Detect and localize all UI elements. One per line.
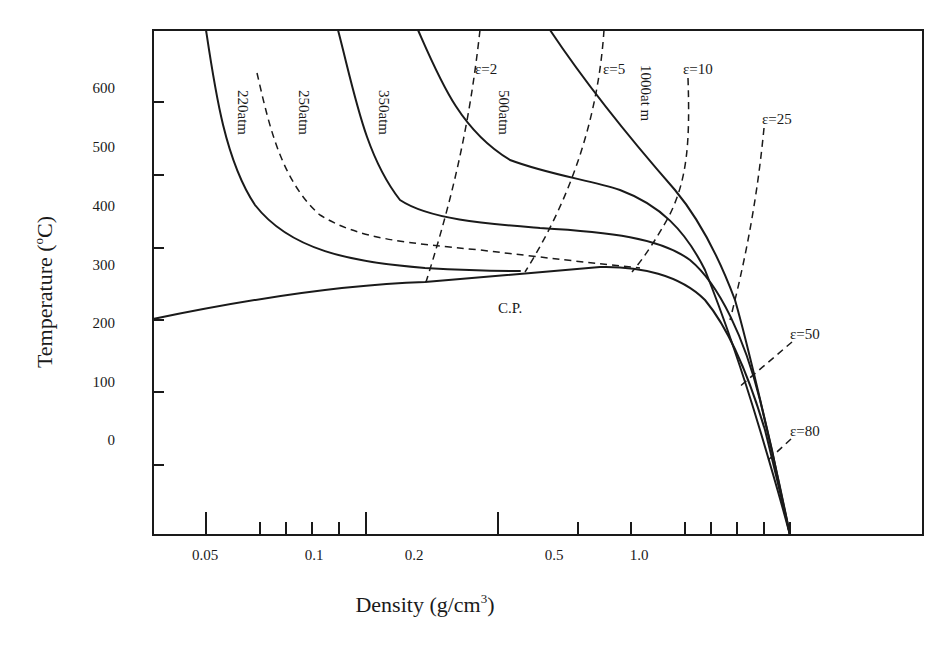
x-axis-ticks [206,512,790,535]
y-tick-500: 500 [93,139,116,155]
x-tick-0.2: 0.2 [405,547,424,563]
epsilon-5-line [525,30,604,272]
label-epsilon-2: ε=2 [475,61,497,77]
label-epsilon-25: ε=25 [762,111,792,127]
y-tick-200: 200 [93,315,116,331]
y-tick-100: 100 [93,374,116,390]
label-250atm: 250atm [296,90,312,135]
label-350atm: 350atm [376,90,392,135]
y-tick-400: 400 [93,198,116,214]
chart: 600 500 400 300 200 100 0 0.05 0.1 0.2 0… [0,0,950,645]
label-220atm: 220atm [235,90,251,135]
label-1000atm: 1000at m [638,65,654,122]
y-tick-600: 600 [93,80,116,96]
epsilon-25-line [730,128,764,320]
x-axis-title: Density (g/cm3) [355,591,494,617]
isobar-1000atm [550,30,790,535]
label-epsilon-10: ε=10 [683,61,713,77]
x-tick-0.1: 0.1 [305,547,324,563]
x-tick-0.05: 0.05 [192,547,218,563]
y-axis-labels: 600 500 400 300 200 100 0 [93,80,116,448]
y-axis-title: Temperature (oC) [31,216,57,368]
isobar-250atm [257,73,640,268]
plot-frame [153,30,923,535]
label-epsilon-50: ε=50 [790,326,820,342]
y-axis-ticks [153,102,164,465]
label-epsilon-5: ε=5 [603,61,625,77]
label-critical-point: C.P. [498,300,522,316]
isobar-220atm [206,30,520,271]
epsilon-50-line [738,342,792,388]
x-axis-labels: 0.05 0.1 0.2 0.5 1.0 [192,547,649,563]
label-epsilon-80: ε=80 [790,423,820,439]
x-tick-1.0: 1.0 [630,547,649,563]
saturation-curve [153,267,790,535]
label-500atm: 500atm [496,90,512,135]
y-tick-0: 0 [108,432,116,448]
y-tick-300: 300 [93,257,116,273]
x-tick-0.5: 0.5 [545,547,564,563]
